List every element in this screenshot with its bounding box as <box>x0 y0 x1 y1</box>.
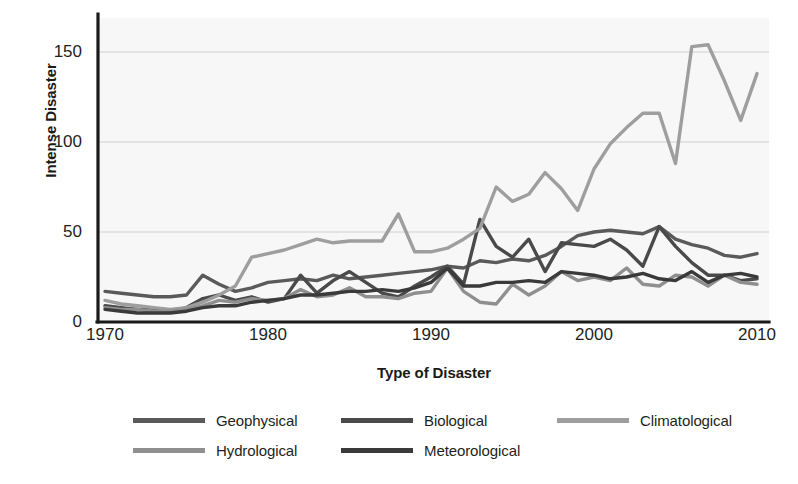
legend-swatch-icon <box>133 448 205 453</box>
legend-item-hydrological[interactable]: Hydrological <box>133 442 297 459</box>
legend-label: Hydrological <box>216 442 297 459</box>
legend-label: Climatological <box>640 412 732 429</box>
legend-item-biological[interactable]: Biological <box>341 412 487 429</box>
legend-item-geophysical[interactable]: Geophysical <box>133 412 297 429</box>
legend-swatch-icon <box>341 418 413 423</box>
legend-swatch-icon <box>133 418 205 423</box>
legend-label: Geophysical <box>216 412 297 429</box>
chart-legend: GeophysicalBiologicalClimatologicalHydro… <box>0 404 798 474</box>
legend-item-meteorological[interactable]: Meteorological <box>341 442 520 459</box>
chart-figure: Intense Disaster Type of Disaster 050100… <box>0 0 798 484</box>
legend-label: Biological <box>424 412 487 429</box>
legend-item-climatological[interactable]: Climatological <box>557 412 732 429</box>
legend-label: Meteorological <box>424 442 520 459</box>
legend-swatch-icon <box>341 448 413 453</box>
legend-swatch-icon <box>557 418 629 423</box>
